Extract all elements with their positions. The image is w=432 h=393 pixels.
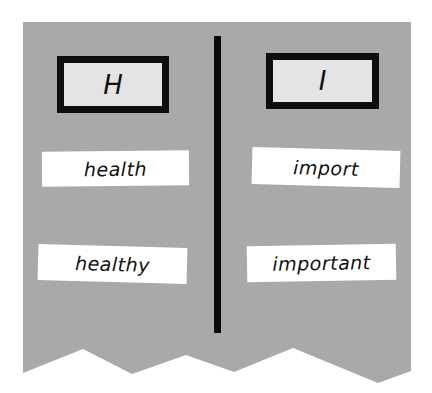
letter-label: H — [103, 70, 123, 100]
letter-label: I — [319, 66, 327, 96]
word-label: important — [272, 251, 371, 275]
word-label: import — [293, 156, 359, 180]
letter-box-h: H — [57, 56, 169, 113]
column-divider — [214, 36, 221, 333]
word-label: health — [84, 157, 147, 180]
word-card-import[interactable]: import — [252, 147, 401, 188]
word-card-health[interactable]: health — [42, 150, 189, 186]
word-card-important[interactable]: important — [247, 244, 397, 283]
letter-box-i: I — [266, 53, 379, 109]
word-card-healthy[interactable]: healthy — [38, 244, 188, 284]
word-label: healthy — [75, 252, 150, 276]
